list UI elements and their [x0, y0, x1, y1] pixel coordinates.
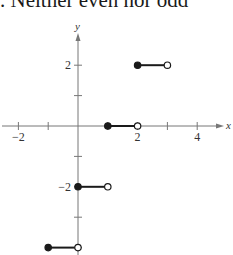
open-endpoint-icon — [105, 184, 111, 190]
y-axis-label: y — [74, 20, 80, 32]
open-endpoint-icon — [134, 123, 140, 129]
axis-ticks — [18, 65, 197, 247]
open-endpoint-icon — [164, 62, 170, 68]
axes — [2, 33, 224, 255]
x-axis-arrow-icon — [216, 124, 224, 129]
y-axis-arrow-icon — [76, 33, 81, 41]
x-tick-label: −2 — [12, 130, 25, 144]
step-function-graph: −2242−2xy — [0, 0, 233, 255]
x-tick-label: 4 — [194, 130, 200, 144]
y-tick-label: 2 — [65, 58, 71, 72]
x-tick-label: 2 — [135, 130, 141, 144]
closed-endpoint-icon — [45, 244, 51, 250]
axis-labels: −2242−2xy — [12, 20, 231, 194]
x-axis-label: x — [225, 119, 231, 131]
y-tick-label: −2 — [58, 180, 71, 194]
closed-endpoint-icon — [75, 184, 81, 190]
step-segments — [45, 62, 171, 251]
closed-endpoint-icon — [134, 62, 140, 68]
open-endpoint-icon — [75, 244, 81, 250]
closed-endpoint-icon — [105, 123, 111, 129]
